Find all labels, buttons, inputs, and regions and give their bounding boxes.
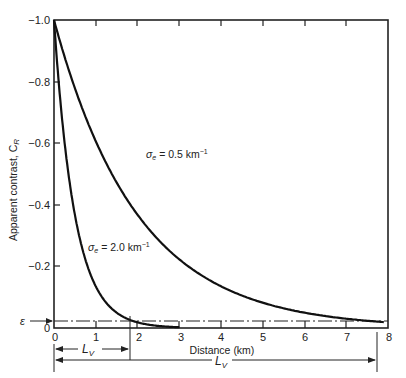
curve-sigma-2.0 [54,20,179,327]
svg-text:7: 7 [344,331,350,343]
svg-text:−0.4: −0.4 [28,199,50,211]
plot-frame [54,20,388,328]
y-ticks [54,82,60,266]
x-tick-labels: 0 1 2 3 4 5 6 7 8 [52,331,392,343]
label-sigma-2.0: σe = 2.0 km−1 [88,241,150,254]
long-lv-arrow-right [368,357,376,363]
svg-text:1: 1 [93,331,99,343]
svg-text:−0.2: −0.2 [28,260,50,272]
svg-text:3: 3 [178,331,184,343]
top-ticks [96,20,346,26]
long-lv-arrow-left [55,357,63,363]
svg-text:−1.0: −1.0 [28,14,50,26]
svg-text:6: 6 [302,331,308,343]
svg-text:4: 4 [218,331,224,343]
epsilon-label: ε [20,315,25,327]
x-axis-label: Distance (km) [190,344,255,356]
svg-text:0: 0 [52,331,58,343]
curve-sigma-0.5 [54,20,384,322]
short-lv-arrow-right [121,346,129,352]
svg-text:−0.6: −0.6 [28,137,50,149]
contrast-vs-distance-chart: −1.0 −0.8 −0.6 −0.4 −0.2 0 Apparent cont… [0,0,406,378]
svg-text:2: 2 [136,331,142,343]
svg-text:−0.8: −0.8 [28,76,50,88]
y-zero-label: 0 [44,322,50,334]
long-lv-label: LV [215,354,228,370]
y-tick-labels: −1.0 −0.8 −0.6 −0.4 −0.2 0 [28,14,50,334]
label-sigma-0.5: σe = 0.5 km−1 [146,148,208,161]
svg-text:8: 8 [386,331,392,343]
short-lv-label: LV [82,342,95,358]
y-axis-label: Apparent contrast, CR [7,139,21,241]
short-lv-arrow-left [55,346,63,352]
svg-text:5: 5 [260,331,266,343]
